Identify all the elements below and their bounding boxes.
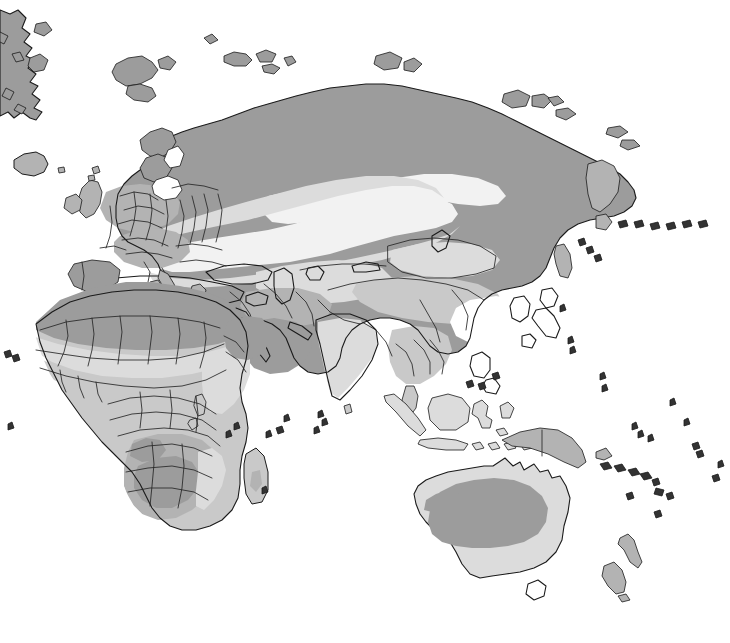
region-madagascar — [244, 448, 268, 504]
world-map-svg — [0, 0, 730, 643]
map-figure — [0, 0, 730, 643]
